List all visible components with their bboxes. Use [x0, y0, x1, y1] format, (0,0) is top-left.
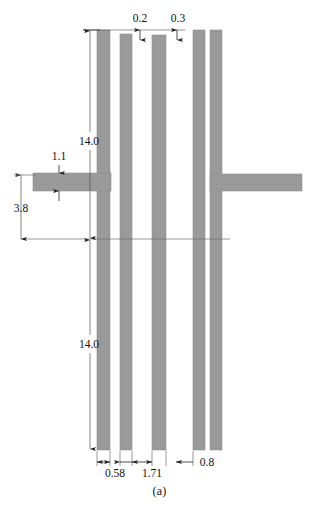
dim-label-1-1: 1.1: [52, 150, 67, 162]
bar-2: [120, 34, 132, 450]
dim-label-0-2: 0.2: [133, 12, 148, 24]
dim-label-0-8: 0.8: [200, 456, 215, 468]
bar-3: [152, 35, 166, 450]
dim-label-3-8: 3.8: [14, 202, 29, 214]
dim-label-0-3: 0.3: [171, 12, 186, 24]
dim-label-upper-14: 14.0: [79, 135, 99, 147]
bar-5: [210, 30, 222, 450]
bar-1: [97, 30, 110, 450]
bar-4: [193, 30, 205, 450]
dim-label-1-71: 1.71: [142, 467, 162, 479]
feed-right: [210, 174, 302, 191]
dim-label-lower-14: 14.0: [79, 338, 99, 350]
feed-left: [33, 173, 111, 191]
dim-label-0-58: 0.58: [105, 467, 125, 479]
engineering-drawing-figure: 0.2 0.3 14.0 14.0 1.1 3.8: [0, 0, 319, 512]
figure-caption: (a): [0, 484, 319, 499]
